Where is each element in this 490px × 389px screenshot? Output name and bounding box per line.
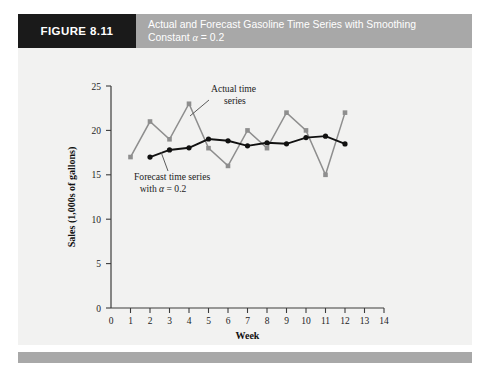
figure-caption-line2-pre: Constant <box>148 32 192 43</box>
x-tick-label: 4 <box>187 316 192 326</box>
actual-data-point <box>148 119 153 124</box>
actual-data-point <box>167 137 172 142</box>
figure-caption: Actual and Forecast Gasoline Time Series… <box>136 14 472 48</box>
forecast-series-annotation: Forecast time series with α = 0.2 <box>134 152 210 194</box>
x-axis-tick-labels: 0 1 2 3 4 5 6 7 8 9 10 11 12 13 14 <box>109 316 389 326</box>
forecast-annotation-line2: with α = 0.2 <box>140 183 187 194</box>
x-tick-label: 7 <box>245 316 250 326</box>
y-tick-label: 5 <box>96 259 101 269</box>
actual-series-annotation: Actual time series <box>190 83 256 116</box>
y-tick-label: 20 <box>92 126 102 136</box>
y-axis-title: Sales (1,000s of gallons) <box>66 147 78 248</box>
forecast-data-point <box>323 134 328 139</box>
forecast-data-point <box>245 143 250 148</box>
x-tick-label: 5 <box>206 316 211 326</box>
figure-caption-line2-post: = 0.2 <box>198 32 224 43</box>
forecast-data-point <box>206 136 211 141</box>
actual-annotation-line1: Actual time <box>211 83 256 94</box>
x-tick-label: 14 <box>379 316 389 326</box>
actual-series-line <box>131 104 346 175</box>
actual-data-point <box>128 155 133 160</box>
forecast-data-point <box>284 141 289 146</box>
x-tick-label: 10 <box>301 316 311 326</box>
y-tick-label: 15 <box>92 170 102 180</box>
series-actual-group <box>128 101 347 177</box>
x-tick-label: 3 <box>167 316 172 326</box>
chart-panel: 25 20 15 10 5 0 <box>18 48 472 345</box>
x-axis-ticks <box>131 308 385 313</box>
forecast-data-point <box>342 141 347 146</box>
figure-header-bar: FIGURE 8.11 Actual and Forecast Gasoline… <box>18 14 472 48</box>
forecast-annotation-line1: Forecast time series <box>134 171 210 182</box>
forecast-data-point <box>264 140 269 145</box>
actual-data-point <box>284 110 289 115</box>
actual-data-point <box>187 101 192 106</box>
actual-annotation-leader <box>190 100 209 116</box>
x-tick-label: 13 <box>360 316 370 326</box>
x-tick-label: 8 <box>265 316 270 326</box>
figure-caption-line1: Actual and Forecast Gasoline Time Series… <box>148 19 416 30</box>
figure-number-tag: FIGURE 8.11 <box>18 14 136 48</box>
y-axis-tick-labels: 25 20 15 10 5 0 <box>92 82 102 314</box>
actual-data-point <box>265 146 270 151</box>
x-tick-label: 12 <box>340 316 350 326</box>
y-tick-label: 0 <box>96 304 101 314</box>
figure-root: FIGURE 8.11 Actual and Forecast Gasoline… <box>0 0 490 389</box>
actual-data-point <box>245 128 250 133</box>
actual-data-point <box>343 110 348 115</box>
forecast-data-point <box>167 147 172 152</box>
y-tick-label: 10 <box>92 215 102 225</box>
forecast-annotation-leader <box>161 152 168 171</box>
x-tick-label: 2 <box>148 316 153 326</box>
forecast-data-point <box>303 135 308 140</box>
forecast-data-point <box>147 154 152 159</box>
x-tick-label: 11 <box>321 316 330 326</box>
forecast-data-point <box>225 138 230 143</box>
gasoline-time-series-chart: 25 20 15 10 5 0 <box>18 48 472 345</box>
y-tick-label: 25 <box>92 82 102 92</box>
actual-data-point <box>226 164 231 169</box>
x-tick-label: 1 <box>128 316 133 326</box>
actual-data-point <box>304 128 309 133</box>
x-tick-label: 9 <box>284 316 289 326</box>
figure-footer-bar <box>18 352 472 363</box>
actual-series-points <box>128 101 347 177</box>
x-tick-label: 6 <box>226 316 231 326</box>
actual-annotation-line2: series <box>224 95 246 106</box>
x-axis-title: Week <box>236 330 260 341</box>
actual-data-point <box>323 173 328 178</box>
x-tick-label: 0 <box>109 316 114 326</box>
actual-data-point <box>206 146 211 151</box>
forecast-data-point <box>186 145 191 150</box>
y-axis-ticks <box>106 86 111 308</box>
